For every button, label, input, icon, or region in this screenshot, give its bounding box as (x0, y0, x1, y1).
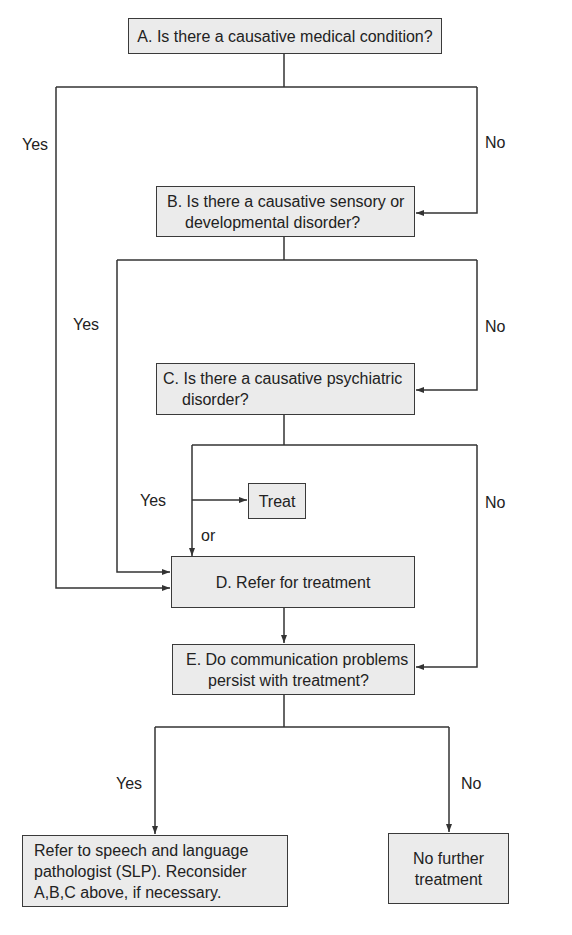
node-e: E. Do communication problems persist wit… (172, 644, 415, 695)
node-slp-line2: pathologist (SLP). Reconsider (34, 861, 247, 882)
label-c-or: or (201, 527, 215, 545)
node-no-further-line2: treatment (415, 869, 483, 890)
label-c-no: No (485, 494, 505, 512)
edge-b-yes (117, 260, 170, 572)
node-e-line2: persist with treatment? (186, 670, 369, 691)
node-e-line1: E. Do communication problems (186, 649, 408, 670)
node-a-text: A. Is there a causative medical conditio… (137, 26, 432, 47)
node-no-further-line1: No further (413, 848, 484, 869)
node-treat: Treat (248, 483, 306, 519)
label-b-yes: Yes (73, 316, 99, 334)
edge-a-no (416, 87, 477, 213)
label-e-yes: Yes (116, 775, 142, 793)
node-treat-text: Treat (259, 491, 296, 512)
node-slp-line3: A,B,C above, if necessary. (34, 882, 221, 903)
node-c: C. Is there a causative psychiatric diso… (156, 363, 415, 415)
label-b-no: No (485, 318, 505, 336)
label-e-no: No (461, 775, 481, 793)
node-d: D. Refer for treatment (171, 556, 415, 608)
edge-a-yes (56, 87, 170, 588)
node-slp: Refer to speech and language pathologist… (22, 835, 288, 907)
node-b-line1: B. Is there a causative sensory or (167, 191, 404, 212)
node-c-line2: disorder? (163, 389, 249, 410)
label-a-yes: Yes (22, 136, 48, 154)
edge-b-no (416, 260, 477, 390)
node-a: A. Is there a causative medical conditio… (128, 18, 442, 54)
label-c-yes: Yes (140, 492, 166, 510)
node-c-line1: C. Is there a causative psychiatric (163, 368, 402, 389)
node-b: B. Is there a causative sensory or devel… (156, 186, 415, 237)
label-a-no: No (485, 134, 505, 152)
node-b-line2: developmental disorder? (167, 212, 360, 233)
node-d-text: D. Refer for treatment (216, 572, 371, 593)
node-slp-line1: Refer to speech and language (34, 840, 248, 861)
node-no-further: No further treatment (388, 833, 509, 904)
edge-c-no (416, 445, 477, 667)
